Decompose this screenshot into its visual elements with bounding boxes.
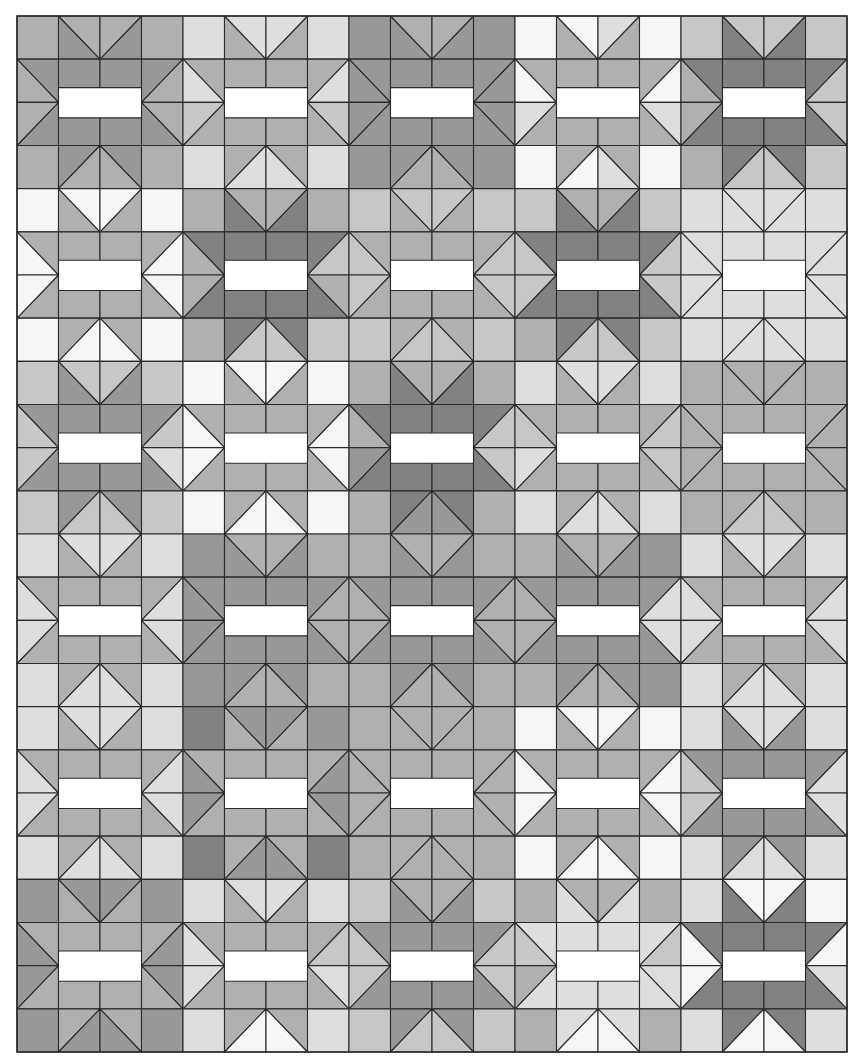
- background-square: [308, 361, 350, 404]
- background-square: [183, 1009, 225, 1052]
- background-square: [349, 318, 391, 361]
- background-square: [17, 491, 59, 534]
- background-square: [142, 664, 184, 707]
- background-square: [515, 879, 557, 922]
- star-center-rectangle: [391, 433, 474, 463]
- background-square: [640, 16, 682, 59]
- background-square: [806, 318, 848, 361]
- background-square: [17, 836, 59, 879]
- background-square: [806, 1009, 848, 1052]
- background-square: [681, 1009, 723, 1052]
- background-square: [183, 491, 225, 534]
- background-square: [17, 664, 59, 707]
- background-square: [142, 146, 184, 189]
- background-square: [515, 836, 557, 879]
- background-square: [349, 146, 391, 189]
- star-center-rectangle: [557, 433, 640, 463]
- background-square: [349, 491, 391, 534]
- background-square: [17, 534, 59, 577]
- star-center-rectangle: [391, 778, 474, 808]
- star-center-rectangle: [59, 433, 142, 463]
- background-square: [308, 146, 350, 189]
- background-square: [308, 879, 350, 922]
- background-square: [349, 879, 391, 922]
- background-square: [474, 664, 516, 707]
- background-square: [681, 189, 723, 232]
- background-square: [806, 664, 848, 707]
- background-square: [515, 16, 557, 59]
- background-square: [17, 318, 59, 361]
- background-square: [640, 836, 682, 879]
- background-square: [681, 836, 723, 879]
- background-square: [183, 361, 225, 404]
- quilt-pattern: [0, 0, 861, 1062]
- background-square: [640, 664, 682, 707]
- background-square: [142, 491, 184, 534]
- background-square: [349, 707, 391, 750]
- background-square: [806, 189, 848, 232]
- background-square: [640, 707, 682, 750]
- star-center-rectangle: [557, 778, 640, 808]
- background-square: [183, 146, 225, 189]
- background-square: [640, 189, 682, 232]
- background-square: [515, 146, 557, 189]
- background-square: [515, 664, 557, 707]
- star-center-rectangle: [723, 260, 806, 290]
- background-square: [640, 361, 682, 404]
- background-square: [349, 664, 391, 707]
- background-square: [142, 879, 184, 922]
- background-square: [308, 1009, 350, 1052]
- star-center-rectangle: [59, 260, 142, 290]
- star-center-rectangle: [59, 951, 142, 981]
- background-square: [806, 491, 848, 534]
- background-square: [515, 534, 557, 577]
- background-square: [183, 16, 225, 59]
- background-square: [515, 707, 557, 750]
- background-square: [17, 361, 59, 404]
- background-square: [183, 318, 225, 361]
- background-square: [17, 146, 59, 189]
- star-center-rectangle: [59, 778, 142, 808]
- background-square: [474, 361, 516, 404]
- background-square: [474, 836, 516, 879]
- star-center-rectangle: [391, 88, 474, 118]
- background-square: [640, 534, 682, 577]
- background-square: [681, 534, 723, 577]
- background-square: [183, 836, 225, 879]
- quilt-canvas: Sawtooth star quilt pattern: [0, 0, 861, 1062]
- star-center-rectangle: [391, 951, 474, 981]
- background-square: [474, 146, 516, 189]
- background-square: [142, 318, 184, 361]
- star-center-rectangle: [225, 433, 308, 463]
- background-square: [142, 189, 184, 232]
- background-square: [349, 534, 391, 577]
- background-square: [308, 491, 350, 534]
- background-square: [515, 1009, 557, 1052]
- background-square: [308, 664, 350, 707]
- star-center-rectangle: [723, 433, 806, 463]
- background-square: [515, 318, 557, 361]
- background-square: [183, 189, 225, 232]
- background-square: [681, 318, 723, 361]
- background-square: [681, 361, 723, 404]
- star-center-rectangle: [723, 606, 806, 636]
- background-square: [142, 1009, 184, 1052]
- background-square: [681, 491, 723, 534]
- background-square: [806, 361, 848, 404]
- background-square: [183, 664, 225, 707]
- background-square: [806, 534, 848, 577]
- star-center-rectangle: [59, 606, 142, 636]
- background-square: [349, 836, 391, 879]
- background-square: [349, 16, 391, 59]
- background-square: [17, 1009, 59, 1052]
- background-square: [349, 189, 391, 232]
- background-square: [806, 836, 848, 879]
- background-square: [806, 879, 848, 922]
- background-square: [474, 879, 516, 922]
- background-square: [142, 836, 184, 879]
- star-center-rectangle: [557, 606, 640, 636]
- background-square: [681, 146, 723, 189]
- background-square: [474, 1009, 516, 1052]
- star-center-rectangle: [557, 88, 640, 118]
- background-square: [183, 534, 225, 577]
